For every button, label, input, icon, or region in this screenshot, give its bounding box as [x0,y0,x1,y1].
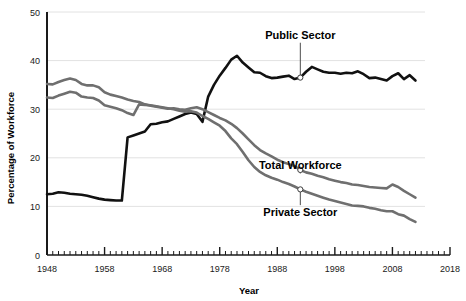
chart-background [0,0,466,301]
chart-container: 01020304050 1948195819681978198819982008… [0,0,466,301]
x-tick-label: 1948 [37,264,57,274]
x-tick-label: 1978 [210,264,230,274]
x-tick-label: 1958 [95,264,115,274]
x-tick-label: 2018 [440,264,460,274]
series-label: Public Sector [265,29,336,41]
y-tick-label: 10 [30,202,40,212]
annotation-marker [298,75,303,80]
series-label: Total Workforce [259,159,342,171]
x-tick-label: 1988 [267,264,287,274]
y-tick-label: 0 [35,251,40,261]
x-axis-title: Year [239,285,259,296]
y-tick-label: 20 [30,153,40,163]
annotation-marker [298,187,303,192]
y-tick-label: 30 [30,105,40,115]
series-label: Private Sector [263,206,338,218]
y-tick-label: 50 [30,8,40,18]
x-tick-label: 1998 [325,264,345,274]
y-tick-label: 40 [30,56,40,66]
x-tick-label: 2008 [382,264,402,274]
y-axis-title: Percentage of Workforce [5,92,16,204]
x-tick-label: 1968 [152,264,172,274]
line-chart: 01020304050 1948195819681978198819982008… [0,0,466,301]
